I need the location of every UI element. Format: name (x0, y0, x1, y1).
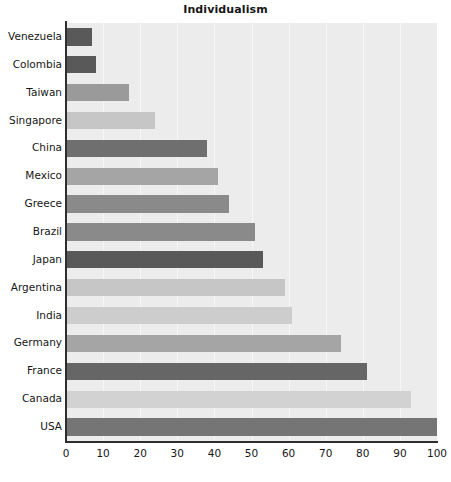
bar-germany (66, 335, 341, 352)
bar-row (66, 56, 437, 73)
value-axis-labels: 0102030405060708090100 (0, 447, 451, 467)
bar-argentina (66, 279, 285, 296)
category-label-france: France (0, 364, 62, 376)
x-tick-label-0: 0 (63, 447, 70, 459)
category-label-usa: USA (0, 420, 62, 432)
category-label-germany: Germany (0, 336, 62, 348)
category-label-mexico: Mexico (0, 169, 62, 181)
x-tick-label-10: 10 (96, 447, 109, 459)
bar-row (66, 112, 437, 129)
x-tick-label-80: 80 (356, 447, 369, 459)
category-label-greece: Greece (0, 197, 62, 209)
bars-layer (66, 23, 437, 441)
x-axis-line (65, 441, 438, 443)
bar-row (66, 418, 437, 435)
x-tick-label-60: 60 (282, 447, 295, 459)
bar-brazil (66, 223, 255, 240)
category-label-singapore: Singapore (0, 114, 62, 126)
x-tick-label-40: 40 (208, 447, 221, 459)
bar-row (66, 168, 437, 185)
x-tick-label-20: 20 (134, 447, 147, 459)
category-label-india: India (0, 309, 62, 321)
x-tick-label-100: 100 (427, 447, 447, 459)
bar-colombia (66, 56, 96, 73)
category-label-venezuela: Venezuela (0, 30, 62, 42)
x-tick-label-70: 70 (319, 447, 332, 459)
plot-area (66, 23, 437, 441)
bar-row (66, 140, 437, 157)
bar-venezuela (66, 28, 92, 45)
bar-row (66, 363, 437, 380)
bar-row (66, 84, 437, 101)
bar-row (66, 251, 437, 268)
bar-singapore (66, 112, 155, 129)
bar-france (66, 363, 367, 380)
bar-row (66, 279, 437, 296)
bar-china (66, 140, 207, 157)
bar-row (66, 307, 437, 324)
x-tick-label-30: 30 (171, 447, 184, 459)
chart-title: Individualism (0, 3, 451, 16)
bar-india (66, 307, 292, 324)
bar-row (66, 28, 437, 45)
bar-row (66, 335, 437, 352)
x-tick-label-90: 90 (393, 447, 406, 459)
category-label-argentina: Argentina (0, 281, 62, 293)
bar-japan (66, 251, 263, 268)
bar-row (66, 391, 437, 408)
category-label-brazil: Brazil (0, 225, 62, 237)
bar-mexico (66, 168, 218, 185)
bar-greece (66, 195, 229, 212)
category-label-colombia: Colombia (0, 58, 62, 70)
individualism-bar-chart: Individualism VenezuelaColombiaTaiwanSin… (0, 0, 451, 482)
category-label-japan: Japan (0, 253, 62, 265)
category-label-china: China (0, 141, 62, 153)
bar-usa (66, 418, 437, 435)
bar-taiwan (66, 84, 129, 101)
category-axis-labels: VenezuelaColombiaTaiwanSingaporeChinaMex… (0, 23, 62, 441)
bar-row (66, 223, 437, 240)
bar-canada (66, 391, 411, 408)
x-tick-label-50: 50 (245, 447, 258, 459)
bar-row (66, 195, 437, 212)
y-axis-line (65, 21, 67, 442)
category-label-taiwan: Taiwan (0, 86, 62, 98)
category-label-canada: Canada (0, 392, 62, 404)
